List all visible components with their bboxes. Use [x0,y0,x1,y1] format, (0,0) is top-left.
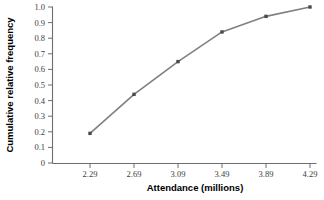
x-tick-label: 3.49 [215,169,230,179]
y-tick-label: 0.9 [34,18,45,28]
y-tick-label: 0.5 [34,80,45,90]
x-tick-label: 2.29 [83,169,98,179]
chart-figure: Cumulative relative frequency Attendance… [0,0,324,200]
y-tick-label: 0.2 [34,127,45,137]
data-point-marker [88,132,91,135]
y-axis-ticks: 1.0 0.9 0.8 0.7 0.6 0.5 0.4 0.3 0.2 0.1 … [34,2,52,168]
data-point-marker [220,30,223,33]
cumulative-frequency-chart: Cumulative relative frequency Attendance… [0,0,324,200]
x-tick-label: 3.89 [259,169,274,179]
y-tick-label: 0.8 [34,33,45,43]
data-series-line [90,7,310,133]
y-tick-label: 0.4 [34,96,45,106]
y-axis-title: Cumulative relative frequency [4,17,15,153]
x-axis-ticks: 2.29 2.69 3.09 3.49 3.89 4.29 [83,164,318,180]
y-tick-label: 1.0 [34,2,45,12]
x-tick-label: 3.09 [171,169,186,179]
y-tick-label: 0.3 [34,111,45,121]
y-tick-label: 0.6 [34,64,45,74]
x-axis-title: Attendance (millions) [147,182,244,193]
data-point-marker [132,93,135,96]
y-tick-label: 0.7 [34,49,45,59]
data-point-marker [264,15,267,18]
y-tick-label: 0.1 [34,142,45,152]
y-tick-label: 0 [41,158,45,168]
data-point-marker [308,5,311,8]
x-tick-label: 4.29 [303,169,318,179]
data-point-marker [176,60,179,63]
x-tick-label: 2.69 [127,169,142,179]
data-series-markers [88,5,311,135]
